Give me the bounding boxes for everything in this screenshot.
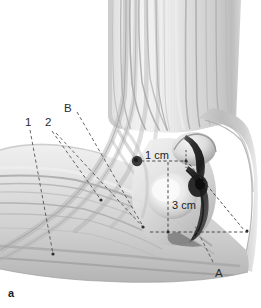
radial-head-capitulum xyxy=(147,173,197,219)
panel-letter-label: a xyxy=(8,288,14,299)
measurement-label-1cm: 1 cm xyxy=(145,150,169,161)
landmark-marker-dot xyxy=(132,156,142,166)
label-structure-2: 2 xyxy=(45,117,51,129)
elbow-anatomy-illustration xyxy=(0,0,261,308)
label-landmark-a: A xyxy=(215,268,223,280)
label-landmark-b: B xyxy=(64,103,72,115)
measurement-label-3cm: 3 cm xyxy=(172,200,196,211)
anatomical-figure-panel: 1 2 B A 1 cm 3 cm a xyxy=(0,0,261,308)
label-structure-1: 1 xyxy=(25,117,31,129)
